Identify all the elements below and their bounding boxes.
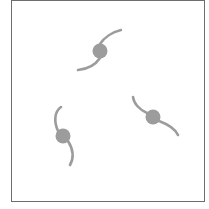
galaxy-left bbox=[55, 107, 72, 165]
galaxy-top bbox=[78, 30, 121, 70]
galaxy-diagram bbox=[0, 0, 209, 209]
galaxy-right bbox=[133, 97, 178, 135]
